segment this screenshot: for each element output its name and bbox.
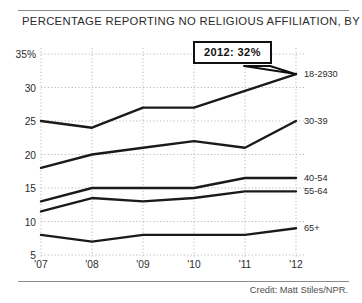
series-line	[41, 121, 296, 168]
chart-figure: PERCENTAGE REPORTING NO RELIGIOUS AFFILI…	[0, 0, 362, 303]
x-axis-tick-label: '09	[123, 259, 163, 270]
credit-line: Credit: Matt Stiles/NPR.	[250, 285, 348, 295]
annotation-callout: 2012: 32%	[193, 41, 272, 64]
y-axis-tick-label: 20	[2, 149, 36, 160]
y-axis-tick-label: 10	[2, 216, 36, 227]
x-axis-tick-label: '08	[72, 259, 112, 270]
y-axis-tick-label: 30	[2, 82, 36, 93]
y-axis-tick-label: 15	[2, 183, 36, 194]
series-label-30-39: 30-39	[304, 116, 328, 126]
series-line	[41, 74, 296, 128]
series-label-65: 65+	[304, 223, 320, 233]
series-line	[41, 178, 296, 201]
y-axis-tick-label: 25	[2, 116, 36, 127]
bottom-divider	[18, 281, 349, 282]
series-line	[41, 191, 296, 211]
x-axis-tick-label: '07	[21, 259, 61, 270]
x-axis-tick-label: '11	[225, 259, 265, 270]
callout-pointer	[244, 66, 296, 74]
x-axis-tick-label: '12	[276, 259, 316, 270]
series-label-18-2930: 18-2930	[304, 69, 338, 79]
x-axis-tick-label: '10	[174, 259, 214, 270]
y-axis-tick-label: 35%	[2, 49, 36, 60]
series-label-40-54: 40-54	[304, 173, 328, 183]
plot-area: 35%30252015105'07'08'09'10'11'1218-29303…	[0, 0, 362, 303]
chart-svg	[0, 0, 362, 303]
series-label-55-64: 55-64	[304, 186, 328, 196]
series-line	[41, 228, 296, 241]
